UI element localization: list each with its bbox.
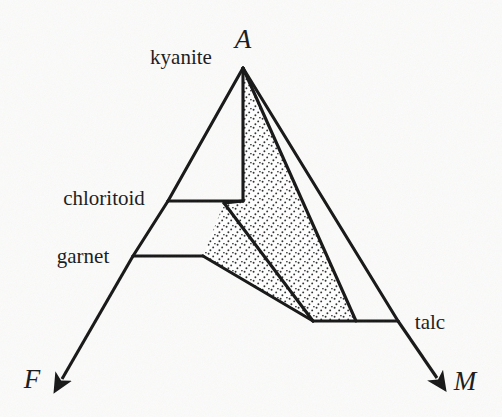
stipple-fields [203, 68, 356, 321]
f-axis-arrow [62, 256, 133, 379]
ctd-node-join [224, 201, 243, 203]
vertex-label-f: F [23, 364, 41, 394]
mineral-label-garnet: garnet [57, 244, 110, 268]
afm-phase-diagram: A F M kyanite chloritoid garnet talc [0, 0, 502, 417]
kyanite-edge-left [168, 68, 243, 201]
mineral-label-chloritoid: chloritoid [63, 186, 145, 210]
vertex-label-a: A [233, 24, 252, 54]
diagram-canvas: A F M kyanite chloritoid garnet talc [0, 0, 502, 417]
mineral-label-kyanite: kyanite [150, 45, 212, 69]
vertex-label-m: M [453, 366, 478, 396]
mineral-label-talc: talc [415, 310, 445, 334]
